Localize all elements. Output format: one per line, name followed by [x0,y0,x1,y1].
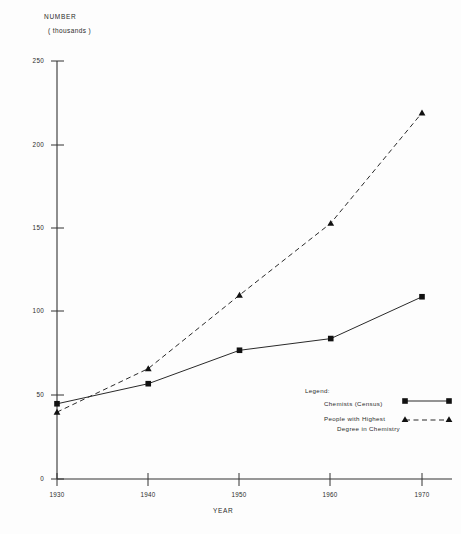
x-tick-label-1970: 1970 [407,491,437,498]
x-tick-label-1950: 1950 [224,491,254,498]
legend-label-highest-degree-line1: People with Highest [324,415,385,422]
legend-swatch-marker-highest-degree-start [402,416,409,422]
x-tick-label-1940: 1940 [133,491,163,498]
y-tick-label-100: 100 [22,307,44,314]
chart-legend: Legend: Chemists (Census) People with Hi… [305,387,455,435]
y-axis-units-label: ( thousands ) [48,27,91,34]
y-tick-label-0: 0 [22,475,44,482]
y-axis-title: NUMBER [44,13,76,20]
y-tick-label-200: 200 [22,141,44,148]
series-markers-highest-degree [54,110,426,415]
legend-swatches [400,393,456,435]
legend-swatch-marker-highest-degree-end [446,416,453,422]
chart-page: NUMBER ( thousands ) YEAR 250 200 150 10… [0,0,461,534]
legend-swatch-marker-chemists-start [402,398,408,404]
line-chart-plot [0,0,461,534]
legend-label-chemists: Chemists (Census) [324,400,383,407]
series-line-highest-degree [57,113,422,412]
x-tick-label-1930: 1930 [42,491,72,498]
x-tick-label-1960: 1960 [315,491,345,498]
legend-swatch-marker-chemists-end [446,398,452,404]
y-tick-label-50: 50 [22,391,44,398]
x-axis-title: YEAR [213,507,234,514]
y-tick-label-250: 250 [22,57,44,64]
legend-label-highest-degree-line2: Degree in Chemistry [337,425,400,432]
y-tick-label-150: 150 [22,224,44,231]
legend-title: Legend: [305,387,330,394]
